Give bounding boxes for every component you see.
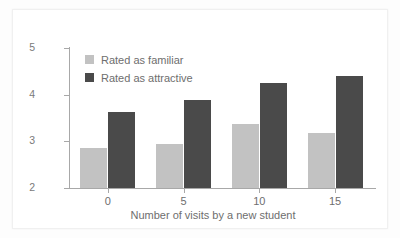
y-tick-label: 2 (15, 182, 35, 193)
legend-label: Rated as familiar (101, 54, 184, 66)
bar-rated-as-attractive-15 (336, 76, 363, 188)
legend-swatch-attractive (85, 73, 94, 82)
bar-rated-as-familiar-10 (232, 124, 259, 188)
x-tick-mark (184, 189, 185, 193)
bar-rated-as-familiar-15 (308, 133, 335, 188)
chart-legend: Rated as familiarRated as attractive (85, 52, 193, 88)
y-tick-label: 4 (15, 89, 35, 100)
y-tick-label: 3 (15, 135, 35, 146)
legend-entry: Rated as familiar (85, 52, 193, 67)
x-axis-title: Number of visits by a new student (13, 209, 400, 221)
legend-label: Rated as attractive (101, 72, 193, 84)
y-tick-mark (64, 95, 69, 96)
bar-rated-as-attractive-5 (184, 100, 211, 188)
x-tick-mark (335, 189, 336, 193)
x-tick-label: 15 (315, 195, 355, 208)
figure-frame: 2345 051015 Number of visits by a new st… (0, 0, 400, 238)
legend-entry: Rated as attractive (85, 70, 193, 85)
x-tick-label: 10 (239, 195, 279, 208)
x-tick-mark (108, 189, 109, 193)
y-tick-mark (64, 141, 69, 142)
x-tick-label: 5 (164, 195, 204, 208)
bar-rated-as-familiar-5 (156, 144, 183, 188)
chart-panel: 2345 051015 Number of visits by a new st… (12, 9, 388, 229)
y-tick-mark (64, 188, 69, 189)
bar-rated-as-attractive-10 (260, 83, 287, 188)
bar-rated-as-familiar-0 (80, 148, 107, 188)
y-tick-mark (64, 48, 69, 49)
legend-swatch-familiar (85, 55, 94, 64)
y-tick-label: 5 (15, 42, 35, 53)
x-tick-label: 0 (88, 195, 128, 208)
bar-rated-as-attractive-0 (108, 112, 135, 188)
x-axis-line (69, 188, 376, 189)
x-tick-mark (259, 189, 260, 193)
